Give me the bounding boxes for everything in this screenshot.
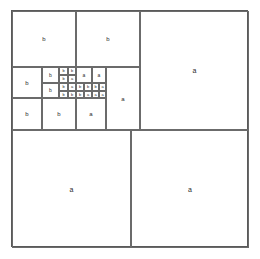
tile-b: b	[12, 11, 76, 67]
tile-label: a	[121, 96, 124, 102]
tile-b: b	[59, 75, 68, 83]
tile-a: a	[106, 67, 140, 130]
tile-label: b	[49, 88, 52, 93]
tile-label: b	[79, 85, 81, 89]
tile-label: b	[87, 85, 89, 89]
tile-label: b	[106, 36, 109, 42]
tile-label: a	[70, 186, 74, 193]
tile-label: b	[62, 77, 64, 81]
tile-a: a	[99, 83, 106, 91]
tile-label: b	[71, 69, 73, 73]
tile-b: b	[59, 83, 68, 91]
tile-b: b	[76, 83, 84, 91]
tile-label: a	[87, 93, 89, 97]
tile-label: b	[25, 111, 28, 117]
tile-label: a	[89, 111, 92, 117]
tile-label: a	[98, 73, 101, 78]
tiling-frame: aaabbabbbabbaabbbababbbabbbaaa	[11, 10, 248, 247]
tile-b: b	[92, 83, 99, 91]
tile-a: a	[140, 11, 249, 130]
tile-a: a	[84, 91, 92, 98]
tile-a: a	[99, 91, 106, 98]
tile-b: b	[59, 91, 68, 98]
tile-a: a	[68, 83, 76, 91]
tile-label: b	[57, 111, 60, 117]
tile-b: b	[84, 83, 92, 91]
tile-b: b	[76, 11, 140, 67]
tile-a: a	[12, 130, 131, 248]
tile-b: b	[42, 83, 59, 98]
tile-b: b	[59, 67, 68, 75]
tile-label: a	[94, 93, 96, 97]
tile-label: b	[42, 36, 45, 42]
tile-label: a	[193, 67, 197, 74]
tile-b: b	[12, 98, 42, 130]
tile-label: b	[62, 85, 64, 89]
diagram-root: aaabbabbbabbaabbbababbbabbbaaa	[0, 0, 260, 259]
tile-label: a	[83, 73, 86, 78]
tile-label: b	[49, 73, 52, 78]
tile-a: a	[76, 98, 106, 130]
tile-label: b	[94, 85, 96, 89]
tile-a: a	[68, 75, 76, 83]
tile-label: b	[79, 93, 81, 97]
tile-label: b	[25, 80, 28, 86]
tile-b: b	[68, 91, 76, 98]
tile-label: b	[71, 93, 73, 97]
tile-a: a	[76, 67, 92, 83]
tile-a: a	[131, 130, 249, 248]
tile-b: b	[12, 67, 42, 98]
tile-label: a	[101, 93, 103, 97]
tile-a: a	[92, 67, 106, 83]
tile-b: b	[76, 91, 84, 98]
tile-label: a	[101, 85, 103, 89]
tile-label: b	[62, 93, 64, 97]
tile-b: b	[42, 98, 76, 130]
tile-b: b	[42, 67, 59, 83]
tile-a: a	[92, 91, 99, 98]
tile-label: a	[71, 77, 73, 81]
tile-b: b	[68, 67, 76, 75]
tile-label: b	[62, 69, 64, 73]
tile-label: a	[71, 85, 73, 89]
tile-label: a	[188, 186, 192, 193]
